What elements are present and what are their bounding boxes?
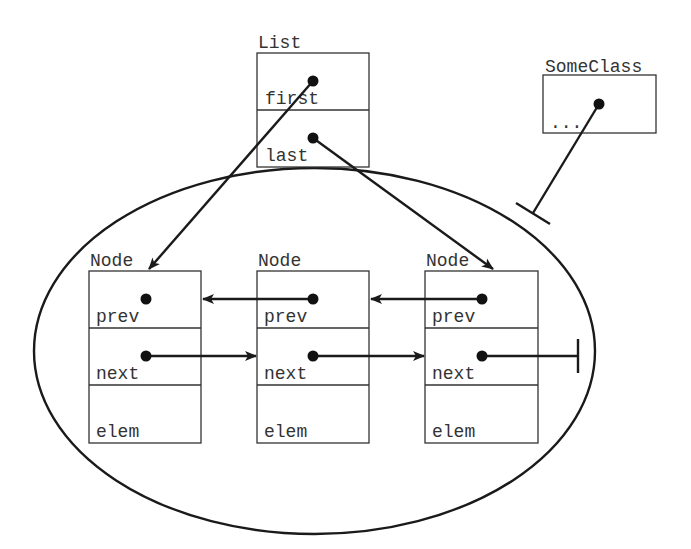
pointer-list-last [313,138,493,269]
node-0-field-prev: prev [96,307,139,327]
someclass-object: SomeClass ... [543,57,656,133]
node-2-field-next: next [432,364,475,384]
list-class-label: List [258,33,301,53]
node-2-field-elem: elem [432,422,475,442]
dot-node-1-next [308,351,319,362]
list-object: List first last [257,33,369,167]
node-1-field-prev: prev [264,307,307,327]
dot-node-1-prev [308,294,319,305]
node-0-field-elem: elem [96,422,139,442]
node-1-label: Node [258,251,301,271]
node-1-field-next: next [264,364,307,384]
someclass-label: SomeClass [545,57,642,77]
node-0-label: Node [90,251,133,271]
node-2-label: Node [426,251,469,271]
dot-node-2-next [477,351,488,362]
dot-node-0-prev [141,294,152,305]
linked-list-diagram: List first last SomeClass ... Node prev … [0,0,691,549]
dot-list-first [308,76,319,87]
node-2: Node prev next elem [425,251,538,443]
pointer-list-first [149,81,313,269]
someclass-field-ellipsis: ... [550,113,582,133]
dot-someclass-field [594,99,605,110]
node-0: Node prev next elem [89,251,201,443]
node-0-field-next: next [96,364,139,384]
dot-node-0-next [141,351,152,362]
node-1-field-elem: elem [264,422,307,442]
blocked-terminator-icon [516,203,550,224]
dot-list-last [308,133,319,144]
node-2-field-prev: prev [432,307,475,327]
list-field-last: last [265,146,308,166]
dot-node-2-prev [477,294,488,305]
node-1: Node prev next elem [257,251,369,443]
